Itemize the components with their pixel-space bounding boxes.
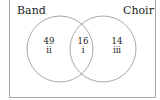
region-band-only: 49 ii bbox=[39, 37, 59, 55]
region-roman: i bbox=[73, 46, 93, 55]
band-label: Band bbox=[17, 5, 46, 16]
choir-label: Choir bbox=[123, 5, 154, 16]
region-roman: iii bbox=[107, 46, 127, 55]
region-both: 16 i bbox=[73, 37, 93, 55]
region-roman: ii bbox=[39, 46, 59, 55]
region-choir-only: 14 iii bbox=[107, 37, 127, 55]
